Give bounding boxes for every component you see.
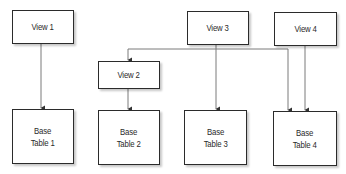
- base-table-4-line1: Base: [293, 127, 317, 139]
- edge-connector-view2: [128, 49, 288, 60]
- base-table-3-line2: Table 3: [204, 138, 228, 150]
- base-table-4-box: Base Table 4: [273, 111, 337, 166]
- base-table-3-line1: Base: [204, 126, 228, 138]
- base-table-2-line2: Table 2: [117, 138, 141, 150]
- view-1-label: View 1: [32, 21, 54, 33]
- view-3-box: View 3: [187, 11, 249, 45]
- base-table-3-box: Base Table 3: [184, 110, 247, 165]
- base-table-1-line2: Table 1: [31, 137, 55, 149]
- view-2-box: View 2: [98, 61, 160, 89]
- diagram-canvas: View 1 View 2 View 3 View 4 Base Table 1…: [0, 0, 346, 174]
- view-3-label: View 3: [207, 22, 229, 34]
- view-4-box: View 4: [274, 12, 337, 46]
- view-4-label: View 4: [294, 23, 316, 35]
- base-table-1-line1: Base: [31, 125, 55, 137]
- base-table-1-box: Base Table 1: [12, 109, 74, 164]
- view-1-box: View 1: [12, 10, 74, 44]
- base-table-4-line2: Table 4: [293, 139, 317, 151]
- view-2-label: View 2: [118, 69, 140, 81]
- base-table-2-line1: Base: [117, 126, 141, 138]
- base-table-2-box: Base Table 2: [98, 110, 160, 165]
